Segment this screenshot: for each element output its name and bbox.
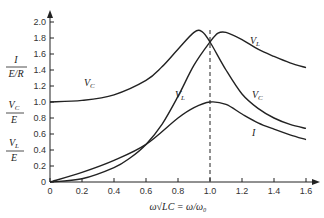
y-tick-label: 0.4 (33, 145, 46, 155)
svg-text:VL: VL (9, 137, 19, 150)
x-ticks: 00.20.40.60.81.01.21.41.6 (47, 178, 312, 196)
y-label-vc: VC E (6, 99, 24, 125)
x-tick-label: 1.0 (204, 186, 217, 196)
x-tick-label: 1.4 (268, 186, 281, 196)
x-tick-label: 0.2 (76, 186, 89, 196)
y-tick-label: 0.6 (33, 129, 46, 139)
y-tick-label: 0.8 (33, 113, 46, 123)
x-tick-label: 0.6 (140, 186, 153, 196)
y-tick-label: 2.0 (33, 17, 46, 27)
svg-text:I: I (13, 54, 18, 65)
x-tick-label: 0.8 (172, 186, 185, 196)
x-tick-label: 1.6 (300, 186, 313, 196)
curves (50, 30, 306, 182)
y-tick-label: 1.0 (33, 97, 46, 107)
x-axis-arrow-icon (312, 179, 320, 185)
curve-vl (50, 32, 306, 182)
svg-text:E: E (10, 152, 17, 163)
y-tick-label: 0.2 (33, 161, 46, 171)
label-vc-left: VC (84, 77, 95, 90)
x-tick-label: 1.2 (236, 186, 249, 196)
y-label-current: I E/R (6, 54, 27, 79)
x-tick-label: 0 (47, 186, 52, 196)
x-tick-label: 0.4 (108, 186, 121, 196)
y-axis-arrow-icon (47, 10, 53, 18)
y-tick-label: 0 (41, 177, 46, 187)
svg-text:E/R: E/R (8, 68, 24, 79)
y-label-vl: VL E (6, 137, 24, 163)
x-axis-label: ω√LC = ω/ω₀ (150, 201, 207, 212)
y-tick-label: 1.8 (33, 33, 46, 43)
label-vc-right: VC (252, 89, 263, 102)
y-tick-label: 1.4 (33, 65, 46, 75)
svg-text:E: E (10, 114, 17, 125)
y-tick-label: 1.6 (33, 49, 46, 59)
svg-text:VC: VC (9, 99, 20, 112)
y-tick-label: 1.2 (33, 81, 46, 91)
label-current-right: I (251, 127, 256, 138)
resonance-chart: 00.20.40.60.81.01.21.41.61.82.0 00.20.40… (0, 0, 324, 218)
